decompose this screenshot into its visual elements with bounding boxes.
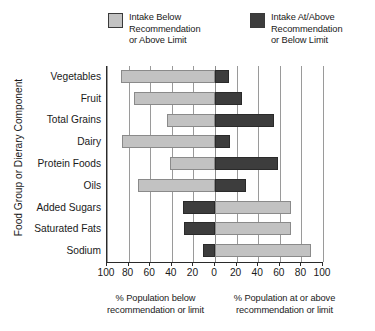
y-axis-label-protein-foods: Protein Foods [0, 158, 101, 170]
dark-gray-swatch-icon [250, 13, 265, 28]
bar-row [107, 197, 323, 219]
bar-row [107, 66, 323, 88]
bar-segment [134, 92, 215, 105]
bar-segment [138, 179, 215, 192]
x-axis-caption-left: % Population below recommendation or lim… [95, 293, 216, 316]
bar-segment [215, 244, 311, 257]
x-tick-label: 100 [307, 267, 337, 278]
bar-segment [215, 157, 278, 170]
x-tick-mark [236, 262, 237, 266]
bar-segment [215, 92, 242, 105]
chart-figure: Intake Below Recommendation or Above Lim… [0, 0, 375, 331]
x-tick-mark [322, 262, 323, 266]
legend-label-intake-below: Intake Below Recommendation or Above Lim… [129, 12, 200, 47]
light-gray-swatch-icon [108, 13, 123, 28]
bar-row [107, 110, 323, 132]
bar-row [107, 175, 323, 197]
bar-segment [122, 135, 215, 148]
x-axis-caption-right: % Population at or above recommendation … [224, 293, 345, 316]
plot-area [106, 66, 323, 262]
x-tick-mark [171, 262, 172, 266]
bar-segment [184, 222, 215, 235]
legend-entry-intake-at-above: Intake At/Above Recommendation or Below … [250, 12, 370, 60]
bar-segment [183, 201, 215, 214]
x-tick-mark [149, 262, 150, 266]
y-axis-label-added-sugars: Added Sugars [0, 202, 101, 214]
x-axis-captions: % Population below recommendation or lim… [95, 293, 345, 316]
bar-row [107, 153, 323, 175]
x-tick-mark [106, 262, 107, 266]
y-axis-label-vegetables: Vegetables [0, 71, 101, 83]
y-axis-label-fruit: Fruit [0, 93, 101, 105]
bar-segment [215, 201, 291, 214]
bar-row [107, 88, 323, 110]
bar-row [107, 131, 323, 153]
x-tick-mark [279, 262, 280, 266]
chart-legend: Intake Below Recommendation or Above Lim… [108, 12, 370, 60]
x-tick-mark [192, 262, 193, 266]
bar-row [107, 240, 323, 262]
y-axis-label-saturated-fats: Saturated Fats [0, 223, 101, 235]
gridline-100 [323, 66, 324, 262]
x-tick-mark [128, 262, 129, 266]
x-tick-mark [214, 262, 215, 266]
bar-row [107, 218, 323, 240]
x-tick-mark [300, 262, 301, 266]
x-tick-mark [257, 262, 258, 266]
bar-segment [167, 114, 215, 127]
bar-segment [215, 114, 274, 127]
y-axis-label-sodium: Sodium [0, 245, 101, 257]
bar-segment [215, 70, 229, 83]
bar-segment [170, 157, 215, 170]
bar-segment [215, 135, 230, 148]
x-axis-ticks: 10080604020020406080100 [106, 262, 322, 282]
y-axis-tick-labels: VegetablesFruitTotal GrainsDairyProtein … [0, 66, 101, 262]
legend-entry-intake-below: Intake Below Recommendation or Above Lim… [108, 12, 228, 60]
bar-segment [203, 244, 215, 257]
legend-label-intake-at-above: Intake At/Above Recommendation or Below … [271, 12, 342, 47]
y-axis-label-total-grains: Total Grains [0, 114, 101, 126]
bar-segment [215, 222, 291, 235]
bar-segment [215, 179, 246, 192]
y-axis-label-oils: Oils [0, 180, 101, 192]
bar-segment [121, 70, 215, 83]
y-axis-label-dairy: Dairy [0, 136, 101, 148]
